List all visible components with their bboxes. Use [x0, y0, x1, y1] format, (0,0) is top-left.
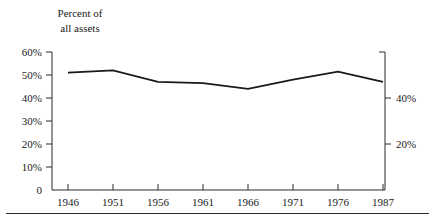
plot-area	[0, 0, 435, 223]
x-tick-label-1961: 1961	[183, 196, 223, 208]
x-tick-label-1946: 1946	[48, 196, 88, 208]
x-tick-label-1956: 1956	[138, 196, 178, 208]
right-axis	[379, 52, 391, 190]
y-right-tick-label-40: 40%	[396, 92, 430, 104]
x-tick-label-1987: 1987	[363, 196, 403, 208]
y-tick-label-30: 30%	[8, 115, 42, 127]
x-tick-label-1976: 1976	[318, 196, 358, 208]
y-tick-label-40: 40%	[8, 92, 42, 104]
footer-divider	[6, 213, 429, 214]
chart-figure: Percent of all assets	[0, 0, 435, 223]
x-axis	[52, 184, 385, 190]
y-tick-label-10: 10%	[8, 161, 42, 173]
y-right-tick-label-20: 20%	[396, 138, 430, 150]
data-line-percent-of-all-assets	[68, 70, 383, 88]
x-tick-label-1966: 1966	[228, 196, 268, 208]
x-tick-label-1971: 1971	[273, 196, 313, 208]
x-tick-label-1951: 1951	[93, 196, 133, 208]
y-tick-label-20: 20%	[8, 138, 42, 150]
y-tick-label-50: 50%	[8, 69, 42, 81]
left-axis	[46, 52, 52, 190]
y-tick-label-0: 0	[8, 184, 42, 196]
y-tick-label-60: 60%	[8, 46, 42, 58]
